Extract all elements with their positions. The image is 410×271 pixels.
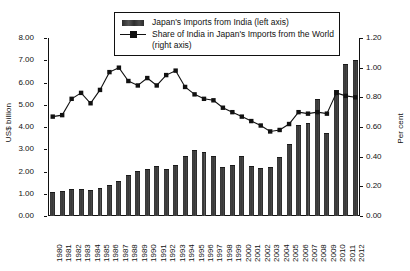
share-marker-2010 — [334, 91, 338, 95]
x-axis-label-2012: 2012 — [358, 244, 366, 262]
share-marker-1996 — [202, 97, 206, 101]
x-axis-label-2002: 2002 — [264, 244, 272, 262]
y-axis-left-tick — [44, 83, 47, 84]
x-axis-label-1988: 1988 — [131, 244, 139, 262]
x-axis-label-1992: 1992 — [169, 244, 177, 262]
share-marker-1982 — [69, 97, 73, 101]
share-marker-2009 — [325, 111, 329, 115]
share-marker-2005 — [287, 122, 291, 126]
x-axis-label-2010: 2010 — [339, 244, 347, 262]
y-axis-left-tick — [44, 149, 47, 150]
share-marker-2008 — [315, 110, 319, 114]
share-marker-1981 — [60, 113, 64, 117]
share-marker-1999 — [230, 110, 234, 114]
x-axis-label-1996: 1996 — [207, 244, 215, 262]
share-marker-1988 — [126, 79, 130, 83]
y-axis-left-tick — [44, 172, 47, 173]
x-axis-label-2011: 2011 — [349, 245, 357, 262]
share-marker-1983 — [79, 91, 83, 95]
x-axis-label-2000: 2000 — [245, 244, 253, 262]
x-axis-label-2007: 2007 — [311, 244, 319, 262]
y-axis-right-tick — [360, 97, 363, 98]
share-markers — [51, 65, 358, 133]
x-axis-label-2003: 2003 — [273, 244, 281, 262]
x-axis-label-1980: 1980 — [56, 244, 64, 262]
y-axis-right-tick — [360, 68, 363, 69]
x-axis-label-2001: 2001 — [254, 244, 262, 262]
y-axis-left-tick-label: 0.00 — [0, 212, 34, 220]
y-axis-left-tick — [44, 194, 47, 195]
share-marker-2002 — [259, 123, 263, 127]
share-marker-1991 — [155, 83, 159, 87]
y-axis-left-tick — [44, 216, 47, 217]
x-axis-label-1983: 1983 — [84, 244, 92, 262]
y-axis-right-tick — [360, 216, 363, 217]
chart-legend: Japan's Imports from India (left axis) S… — [114, 12, 340, 56]
y-axis-right-tick-label: 0.40 — [366, 153, 406, 161]
x-axis-label-1991: 1991 — [160, 244, 168, 262]
y-axis-left-tick — [44, 38, 47, 39]
share-marker-1995 — [192, 92, 196, 96]
share-marker-1987 — [117, 65, 121, 69]
y-axis-right-tick-label: 0.60 — [366, 123, 406, 131]
y-axis-left-tick — [44, 60, 47, 61]
legend-item-imports: Japan's Imports from India (left axis) — [120, 17, 334, 28]
share-marker-1992 — [164, 73, 168, 77]
x-axis-label-1981: 1981 — [65, 244, 73, 262]
share-marker-2006 — [296, 110, 300, 114]
share-marker-1985 — [98, 88, 102, 92]
y-axis-right-tick — [360, 186, 363, 187]
share-marker-1984 — [88, 101, 92, 105]
share-marker-1989 — [136, 83, 140, 87]
y-axis-left-tick-label: 7.00 — [0, 56, 34, 64]
x-axis-label-1985: 1985 — [103, 244, 111, 262]
y-axis-right-tick-label: 0.80 — [366, 93, 406, 101]
share-marker-1980 — [51, 114, 55, 118]
y-axis-left-tick-label: 6.00 — [0, 79, 34, 87]
legend-label-imports: Japan's Imports from India (left axis) — [152, 17, 289, 28]
chart-container: US$ billion Per cent 0.001.002.003.004.0… — [0, 0, 410, 271]
y-axis-left-tick-label: 8.00 — [0, 34, 34, 42]
legend-label-share: Share of India in Japan's Imports from t… — [152, 29, 334, 50]
x-axis-label-2005: 2005 — [292, 244, 300, 262]
share-marker-2011 — [344, 94, 348, 98]
x-axis-label-2009: 2009 — [330, 244, 338, 262]
x-axis-label-1997: 1997 — [216, 244, 224, 262]
share-marker-1993 — [173, 68, 177, 72]
x-axis-label-2006: 2006 — [302, 244, 310, 262]
y-axis-left-tick — [44, 105, 47, 106]
x-axis-label-1998: 1998 — [226, 244, 234, 262]
y-axis-right-tick-label: 1.20 — [366, 34, 406, 42]
x-axis-label-1990: 1990 — [150, 244, 158, 262]
x-axis-label-1986: 1986 — [112, 244, 120, 262]
share-marker-2003 — [268, 129, 272, 133]
plot-area: 0.001.002.003.004.005.006.007.008.00 0.0… — [48, 38, 360, 216]
y-axis-right-tick-label: 0.20 — [366, 182, 406, 190]
x-axis-label-1982: 1982 — [75, 244, 83, 262]
x-axis-label-1987: 1987 — [122, 244, 130, 262]
share-marker-2001 — [249, 119, 253, 123]
y-axis-right-tick-label: 1.00 — [366, 64, 406, 72]
y-axis-right-tick — [360, 38, 363, 39]
x-axis-label-1994: 1994 — [188, 244, 196, 262]
line-series-share — [48, 38, 360, 216]
y-axis-left-tick-label: 1.00 — [0, 190, 34, 198]
y-axis-left-tick — [44, 127, 47, 128]
y-axis-left-tick-label: 2.00 — [0, 168, 34, 176]
y-axis-left-tick-label: 5.00 — [0, 101, 34, 109]
y-axis-left-tick-label: 4.00 — [0, 123, 34, 131]
x-axis-label-1993: 1993 — [179, 244, 187, 262]
bar-swatch-icon — [120, 17, 146, 28]
share-marker-2007 — [306, 111, 310, 115]
share-marker-2000 — [240, 114, 244, 118]
share-marker-1997 — [211, 98, 215, 102]
share-marker-1998 — [221, 106, 225, 110]
share-marker-2004 — [277, 128, 281, 132]
share-marker-1990 — [145, 76, 149, 80]
legend-item-share: Share of India in Japan's Imports from t… — [120, 29, 334, 50]
x-axis-label-2008: 2008 — [320, 244, 328, 262]
line-marker-swatch-icon — [120, 29, 146, 40]
x-axis-label-2004: 2004 — [283, 244, 291, 262]
share-marker-1994 — [183, 85, 187, 89]
y-axis-left-tick-label: 3.00 — [0, 145, 34, 153]
